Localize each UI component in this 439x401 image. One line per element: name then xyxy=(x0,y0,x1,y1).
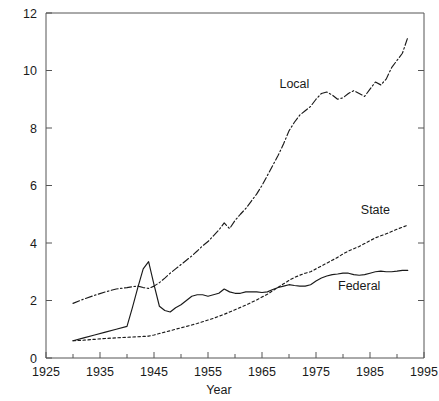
y-tick-label: 8 xyxy=(30,122,37,136)
x-tick-label: 1975 xyxy=(302,365,330,379)
series-label-local: Local xyxy=(279,77,309,91)
x-tick-label: 1985 xyxy=(356,365,384,379)
x-tick-label: 1935 xyxy=(86,365,114,379)
x-tick-label: 1925 xyxy=(32,365,60,379)
line-chart: 024681012 192519351945195519651975198519… xyxy=(0,0,439,401)
y-tick-label: 0 xyxy=(30,352,37,366)
chart-container: 024681012 192519351945195519651975198519… xyxy=(0,0,439,401)
chart-background xyxy=(0,0,439,401)
x-tick-label: 1945 xyxy=(140,365,168,379)
y-tick-label: 2 xyxy=(30,294,37,308)
y-tick-label: 10 xyxy=(23,64,37,78)
x-tick-label: 1965 xyxy=(248,365,276,379)
y-tick-label: 12 xyxy=(23,7,37,21)
y-tick-label: 4 xyxy=(30,237,37,251)
series-label-state: State xyxy=(361,203,390,217)
x-tick-label: 1955 xyxy=(194,365,222,379)
y-tick-label: 6 xyxy=(30,179,37,193)
x-tick-label: 1995 xyxy=(410,365,438,379)
x-axis-title: Year xyxy=(206,383,231,397)
series-label-federal: Federal xyxy=(338,279,380,293)
